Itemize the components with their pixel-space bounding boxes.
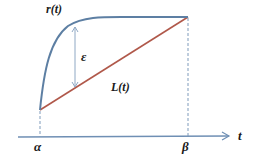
axis-t-label: t <box>238 128 242 143</box>
time-axis <box>18 136 229 137</box>
epsilon-label: ε <box>81 49 87 64</box>
line-label: L(t) <box>110 80 130 94</box>
alpha-label: α <box>34 139 42 154</box>
diagram-canvas: r(t) ε L(t) α β t <box>0 0 261 159</box>
beta-label: β <box>181 139 189 154</box>
curve-label: r(t) <box>46 2 62 16</box>
